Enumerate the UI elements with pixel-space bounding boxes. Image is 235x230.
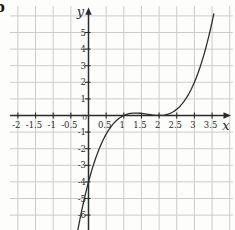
x-tick-label: 1.5 bbox=[133, 120, 147, 130]
x-tick-label: 1 bbox=[120, 120, 125, 130]
y-tick-label: -2 bbox=[78, 144, 86, 154]
y-tick-label: -1 bbox=[78, 127, 86, 137]
x-tick-label: 3.5 bbox=[204, 120, 218, 130]
x-tick-label: 3 bbox=[190, 120, 195, 130]
y-tick-label: 2 bbox=[81, 77, 86, 87]
y-tick-label: 1 bbox=[81, 94, 86, 104]
origin-label: 0 bbox=[82, 113, 87, 122]
x-tick-label: -0.5 bbox=[61, 120, 77, 130]
plot-svg: -2-1.5-1-0.50.511.522.533.554321-1-2-3-4… bbox=[0, 0, 235, 230]
y-tick-label: 4 bbox=[81, 44, 86, 54]
x-tick-label: -1.5 bbox=[26, 120, 42, 130]
x-tick-label: -1 bbox=[48, 120, 56, 130]
y-tick-label: 3 bbox=[81, 61, 86, 71]
graph-figure: b -2-1.5-1-0.50.511.522.533.554321-1-2-3… bbox=[0, 0, 235, 230]
y-tick-label: 5 bbox=[81, 28, 86, 38]
x-tick-label: -2 bbox=[12, 120, 20, 130]
figure-part-label: b bbox=[0, 0, 5, 15]
x-tick-label: 2.5 bbox=[168, 120, 182, 130]
x-tick-label: 2 bbox=[155, 120, 160, 130]
y-axis-label: y bbox=[76, 4, 85, 19]
y-tick-label: -3 bbox=[78, 160, 86, 170]
x-axis-label: x bbox=[222, 118, 230, 133]
y-tick-label: -4 bbox=[78, 177, 86, 187]
y-axis-arrow-icon bbox=[85, 8, 91, 15]
